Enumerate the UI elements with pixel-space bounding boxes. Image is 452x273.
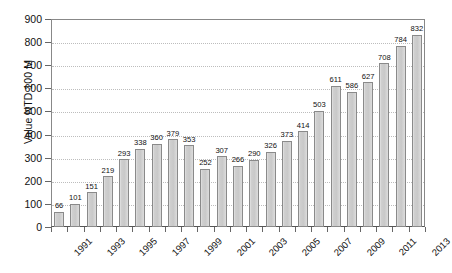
bar-column[interactable]: 326 [266,19,276,227]
bar-column[interactable]: 290 [249,19,259,227]
bar-value-label: 379 [167,130,180,138]
bar-column[interactable]: 252 [200,19,210,227]
bar[interactable] [184,145,194,227]
bar-column[interactable]: 219 [103,19,113,227]
bar-value-label: 586 [345,82,358,90]
x-tick-label: 1999 [202,236,224,258]
bar-value-label: 708 [378,54,391,62]
x-tick-mark [181,227,182,232]
x-tick-label: 2007 [332,236,354,258]
bar[interactable] [217,156,227,227]
bar-column[interactable]: 360 [152,19,162,227]
bar-column[interactable]: 503 [314,19,324,227]
x-tick-label: 2011 [397,236,419,258]
x-tick-mark [392,227,393,232]
x-tick-mark [246,227,247,232]
bar-value-label: 611 [330,76,342,84]
bar-value-label: 353 [183,136,196,144]
y-tick-label: 0 [2,222,42,232]
bar-value-label: 307 [215,147,228,155]
bar-column[interactable]: 266 [233,19,243,227]
bar[interactable] [347,92,357,227]
bar[interactable] [87,192,97,227]
bar[interactable] [103,176,113,227]
bar-column[interactable]: 373 [282,19,292,227]
bar-column[interactable]: 708 [379,19,389,227]
y-tick-label: 800 [2,37,42,47]
bar-value-label: 627 [362,73,375,81]
y-tick-label: 100 [2,199,42,209]
x-tick-label: 2003 [267,236,289,258]
x-tick-mark [295,227,296,232]
bar-series: 6610115121929333836037935325230726629032… [51,19,425,227]
y-tick-label: 300 [2,153,42,163]
bar[interactable] [266,152,276,227]
y-tick-label: 500 [2,106,42,116]
x-tick-mark [149,227,150,232]
x-tick-mark [116,227,117,232]
bar-value-label: 784 [394,36,407,44]
x-tick-label: 2009 [365,236,387,258]
bar-value-label: 373 [280,131,293,139]
bar[interactable] [119,159,129,227]
bar-column[interactable]: 586 [347,19,357,227]
bar[interactable] [379,63,389,227]
x-tick-mark [425,227,426,232]
y-axis: 0100200300400500600700800900 [0,0,51,273]
bar-column[interactable]: 379 [168,19,178,227]
x-tick-mark [100,227,101,232]
bar[interactable] [396,46,406,227]
bar-value-label: 326 [264,142,277,150]
x-tick-label: 1991 [72,236,94,258]
x-tick-label: 2001 [235,236,257,258]
bar[interactable] [135,149,145,227]
bar[interactable] [298,131,308,227]
bar-value-label: 360 [150,134,163,142]
bar[interactable] [314,111,324,227]
bar[interactable] [200,169,210,227]
x-tick-mark [165,227,166,232]
x-tick-label: 2013 [430,236,452,258]
x-tick-label: 1995 [137,236,159,258]
x-tick-mark [262,227,263,232]
bar-value-label: 101 [69,194,82,202]
bar-value-label: 290 [248,150,261,158]
bar-column[interactable]: 353 [184,19,194,227]
bar-column[interactable]: 611 [331,19,341,227]
bar-value-label: 219 [102,167,115,175]
bar-value-label: 293 [118,150,131,158]
bar-column[interactable]: 832 [412,19,422,227]
bar[interactable] [331,86,341,227]
bar-column[interactable]: 151 [87,19,97,227]
bar-value-label: 266 [232,156,245,164]
bar-column[interactable]: 101 [70,19,80,227]
bar-column[interactable]: 293 [119,19,129,227]
bar[interactable] [282,141,292,227]
bar-column[interactable]: 338 [135,19,145,227]
bar[interactable] [249,160,259,227]
x-tick-mark [360,227,361,232]
x-tick-mark [51,227,52,232]
x-tick-mark [311,227,312,232]
bar-column[interactable]: 627 [363,19,373,227]
bar-column[interactable]: 307 [217,19,227,227]
bar-value-label: 252 [199,159,212,167]
bar[interactable] [152,144,162,227]
bar[interactable] [70,204,80,227]
bar-column[interactable]: 784 [396,19,406,227]
bar[interactable] [54,212,64,227]
bar-column[interactable]: 414 [298,19,308,227]
bar[interactable] [168,139,178,227]
x-tick-label: 2005 [300,236,322,258]
bar[interactable] [412,35,422,227]
bar-value-label: 66 [55,202,63,210]
x-tick-mark [230,227,231,232]
bar-column[interactable]: 66 [54,19,64,227]
x-tick-label: 1993 [105,236,127,258]
y-tick-label: 400 [2,130,42,140]
bar[interactable] [363,82,373,227]
bar[interactable] [233,166,243,227]
x-tick-mark [197,227,198,232]
y-tick-label: 600 [2,83,42,93]
y-tick-label: 700 [2,60,42,70]
